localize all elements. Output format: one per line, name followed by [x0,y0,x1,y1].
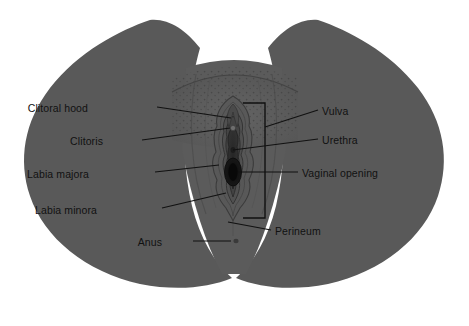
label-perineum: Perineum [275,225,321,237]
clitoris-glans [230,125,235,130]
label-vulva: Vulva [322,105,348,117]
label-clitoris: Clitoris [70,135,103,147]
label-clitoral-hood: Clitoral hood [28,102,88,114]
label-anus: Anus [138,236,162,248]
label-labia-minora: Labia minora [35,204,97,216]
label-vaginal-opening: Vaginal opening [302,167,378,179]
anus-marker [233,239,238,243]
label-labia-majora: Labia majora [27,168,89,180]
anatomy-diagram-figure: Clitoral hood Clitoris Labia majora Labi… [0,0,469,326]
vaginal-opening-core [228,163,237,181]
anatomy-illustration [0,0,469,326]
label-urethra: Urethra [322,134,358,146]
